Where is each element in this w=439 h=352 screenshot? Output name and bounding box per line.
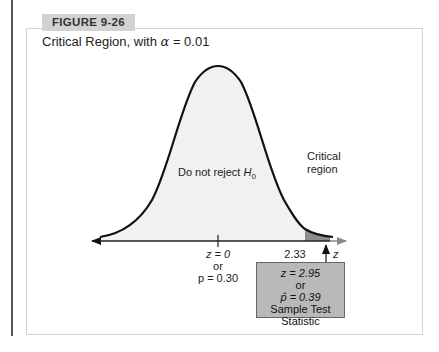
test-statistic-or: or [257, 279, 344, 291]
test-statistic-z: z = 2.95 [257, 267, 344, 279]
center-p-label: p = 0.30 [198, 272, 238, 284]
normal-curve-diagram: Do not reject H0 Critical region z = 0 o… [0, 0, 439, 352]
test-statistic-p-hat: p̂ = 0.39 [257, 291, 344, 303]
critical-label-line1: Critical [307, 150, 341, 162]
center-z-label: z = 0 [205, 248, 231, 260]
critical-value-label: 2.33 [284, 248, 305, 260]
test-statistic-box: z = 2.95 or p̂ = 0.39 Sample Test Statis… [256, 262, 345, 318]
test-statistic-label: Sample Test Statistic [257, 303, 344, 327]
acceptance-region [100, 66, 305, 241]
axis-variable-label: z [332, 248, 339, 260]
center-or-label: or [213, 260, 223, 272]
critical-label-line2: region [307, 163, 338, 175]
